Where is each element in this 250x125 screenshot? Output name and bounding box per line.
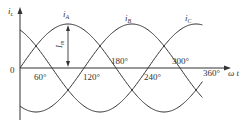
tick-label-120: 120° (83, 72, 101, 82)
im-arrow-up-icon (66, 25, 70, 31)
series-label-ia: iA (63, 9, 70, 20)
origin-label: 0 (10, 65, 15, 75)
im-arrow-down-icon (66, 61, 70, 67)
tick-label-360: 360° (203, 68, 221, 78)
im-label: Im (54, 40, 65, 49)
tick-label-180: 180° (111, 56, 129, 66)
x-axis-label: ω t (228, 68, 240, 78)
series-label-ic: iC (185, 13, 193, 24)
waveform-chart: Im iL iA iB iC 0 60° 120° 180° 240° 300°… (0, 0, 250, 125)
y-axis-arrow-icon (18, 7, 23, 14)
tick-label-60: 60° (34, 72, 47, 82)
series-label-ib: iB (125, 13, 132, 24)
tick-label-240: 240° (144, 72, 162, 82)
tick-label-300: 300° (172, 56, 190, 66)
y-axis-label: iL (8, 6, 14, 17)
